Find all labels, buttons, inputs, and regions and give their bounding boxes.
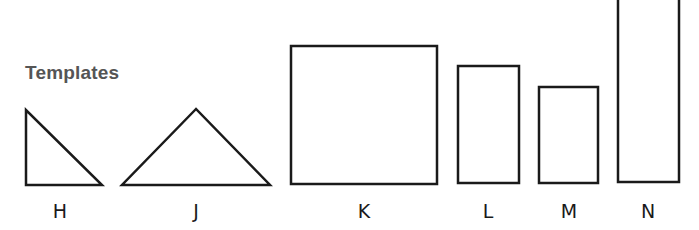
shape-h-right-triangle [26,110,102,185]
label-j: J [193,200,199,222]
label-n: N [641,200,655,222]
label-l: L [483,200,494,222]
shape-j-triangle [122,109,270,185]
label-k: K [358,200,370,222]
shape-l-rectangle [458,66,519,183]
label-m: M [561,200,577,222]
shape-m-rectangle [539,87,598,183]
shapes-canvas [0,0,699,230]
label-h: H [53,200,67,222]
shape-k-rectangle [291,46,437,184]
shape-n-rectangle [618,0,679,182]
